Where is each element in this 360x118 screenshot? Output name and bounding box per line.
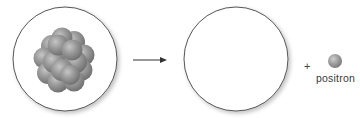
positron-emission-diagram xyxy=(0,0,360,118)
product-circle xyxy=(184,7,288,111)
plus-sign: + xyxy=(304,60,310,72)
positron-label: positron xyxy=(316,72,355,84)
positron-icon xyxy=(328,54,342,68)
reaction-arrow xyxy=(133,57,167,63)
